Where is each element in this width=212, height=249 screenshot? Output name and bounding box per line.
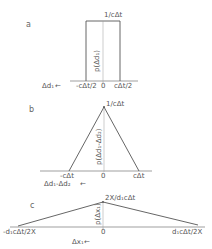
panel-c-tick-zero: 0 [101,228,105,236]
panel-b-axis-var: p(Δd₁-Δd₂) [95,128,103,165]
panel-c-axis-var: p(Δx₁) [94,203,102,225]
panel-a-label: a [26,20,31,29]
panel-b-peak-label: 1/cΔt [106,100,124,108]
panel-c-peak-dot [102,201,104,203]
panel-c: c 2X/d₁cΔt p(Δx₁) -d₁cΔt/2X 0 d₁cΔt/2X Δ… [3,194,205,246]
panel-b-peak-dot [103,106,105,108]
panel-a: a 1/cΔt p(Δd₁) Δd₁ ← -cΔt/2 0 cΔt/2 [26,11,138,90]
panel-a-tick-right: cΔt/2 [114,82,132,90]
distribution-diagram: a 1/cΔt p(Δd₁) Δd₁ ← -cΔt/2 0 cΔt/2 b 1/… [0,0,212,249]
panel-b-tick-right: cΔt [133,172,145,180]
panel-a-axis-var: p(Δd₁) [93,50,101,72]
panel-a-x-label: Δd₁ [42,82,54,90]
panel-c-peak-label: 2X/d₁cΔt [105,194,135,202]
arrow-icon: ← [80,180,86,188]
panel-c-tick-right: d₁cΔt/2X [172,228,202,236]
panel-b-tick-left: -cΔt [60,172,74,180]
panel-a-tick-zero: 0 [101,82,105,90]
panel-b-label: b [29,105,34,114]
panel-c-triangle [18,202,198,226]
panel-b: b 1/cΔt p(Δd₁-Δd₂) -cΔt 0 cΔt Δd₁-Δd₂ ← [29,100,152,188]
panel-a-tick-left: -cΔt/2 [76,82,97,90]
panel-b-x-label: Δd₁-Δd₂ [44,180,71,188]
arrow-icon: ← [84,238,90,246]
panel-c-label: c [30,201,34,210]
panel-c-tick-left: -d₁cΔt/2X [3,228,36,236]
panel-c-x-label: Δx₁ [72,238,84,246]
panel-b-tick-zero: 0 [101,172,105,180]
arrow-icon: ← [55,82,61,90]
panel-a-peak-label: 1/cΔt [104,11,122,19]
